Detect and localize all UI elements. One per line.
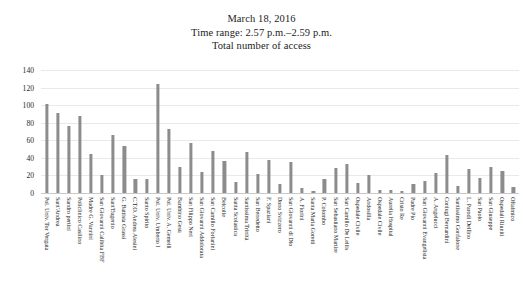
x-tick-label: Madre G. Vannini — [88, 197, 94, 240]
bar — [456, 186, 459, 193]
bar-slot — [130, 70, 141, 195]
bar — [167, 129, 170, 193]
x-tick-label: San Benedetto — [255, 197, 261, 232]
bar — [367, 175, 370, 193]
x-tick-label: A. Fiorini — [299, 197, 305, 221]
bar — [267, 160, 270, 193]
x-label-slot: A. Angelucci — [430, 196, 441, 295]
x-tick-label: Pol. Univ. Tor Vergata — [44, 197, 50, 250]
x-label-slot: Sant'Andrea — [52, 196, 63, 295]
x-label-slot: Sandro pertini — [63, 196, 74, 295]
x-label-slot: Aurelia Hospital — [386, 196, 397, 295]
bar-slot — [85, 70, 96, 195]
bar — [189, 143, 192, 193]
bar-slot — [430, 70, 441, 195]
x-tick-label: G. Battista Grassi — [121, 197, 127, 239]
x-label-slot: Santo Spirito — [141, 196, 152, 295]
x-tick-label: Ospedale Civile — [355, 197, 361, 235]
x-label-slot: Coniugi Bernardini — [441, 196, 452, 295]
bar — [334, 168, 337, 193]
x-tick-label: F. Spaziani — [266, 197, 272, 223]
x-tick-label: Sant'Andrea — [55, 197, 61, 226]
y-tick-label: 100 — [23, 101, 34, 110]
x-tick-label: Santa Maria Goretti — [310, 197, 316, 244]
bar — [445, 155, 448, 193]
x-tick-label: Santo Spirito — [144, 197, 150, 228]
x-tick-label: San Giuseppe — [488, 197, 494, 230]
bar-slot — [475, 70, 486, 195]
y-tick-label: 80 — [26, 118, 34, 127]
bar — [412, 184, 415, 193]
x-tick-label: San Giovanni Calibita FBF — [99, 197, 105, 262]
x-tick-label: Pol. Univ. Umberto I — [155, 197, 161, 247]
bar-series — [41, 70, 519, 195]
bar-slot — [363, 70, 374, 195]
bar — [478, 178, 481, 193]
x-tick-label: San Giovanni Addolorata — [199, 197, 205, 258]
x-tick-label: San Paolo — [477, 197, 483, 221]
x-label-slot: Madre G. Vannini — [85, 196, 96, 295]
x-tick-label: San Camillo De Lellis — [344, 197, 350, 250]
y-tick-label: 140 — [23, 66, 34, 75]
x-label-slot: San Camillo De Lellis — [341, 196, 352, 295]
x-label-slot: San Giovanni di Dio — [286, 196, 297, 295]
x-label-slot: San Giovanni Calibita FBF — [97, 196, 108, 295]
x-label-slot: L. Parodi Delfino — [463, 196, 474, 295]
bar-slot — [441, 70, 452, 195]
bar-slot — [486, 70, 497, 195]
x-label-slot: Pol. Univ. Umberto I — [152, 196, 163, 295]
bar-slot — [297, 70, 308, 195]
x-label-slot: Oftalmico — [508, 196, 519, 295]
bar — [467, 169, 470, 193]
x-tick-label: Santissima Trinità — [244, 197, 250, 240]
title-line-date: March 18, 2016 — [0, 12, 523, 26]
x-label-slot: San Camillo Forlanini — [208, 196, 219, 295]
x-label-slot: G. Battista Grassi — [119, 196, 130, 295]
x-label-slot: Andosilla — [363, 196, 374, 295]
bar-slot — [208, 70, 219, 195]
x-tick-label: Belcolle — [221, 197, 227, 217]
bar-slot — [119, 70, 130, 195]
bar — [490, 167, 493, 193]
bar-slot — [497, 70, 508, 195]
y-tick-label: 40 — [26, 153, 34, 162]
bar — [512, 187, 515, 193]
bar — [290, 162, 293, 193]
bar-slot — [274, 70, 285, 195]
x-label-slot: Santa Scolastica — [230, 196, 241, 295]
bar-slot — [241, 70, 252, 195]
x-tick-label: A. Angelucci — [433, 197, 439, 229]
bar-slot — [97, 70, 108, 195]
x-label-slot: F. Spaziani — [263, 196, 274, 295]
bar-slot — [141, 70, 152, 195]
bar-slot — [152, 70, 163, 195]
bar-slot — [163, 70, 174, 195]
y-tick-label: 0 — [30, 189, 34, 198]
x-tick-label: Cristo Re — [399, 197, 405, 220]
x-tick-label: Santa Scolastica — [232, 197, 238, 236]
x-tick-label: Coniugi Bernardini — [444, 197, 450, 243]
bar-slot — [263, 70, 274, 195]
bar-slot — [74, 70, 85, 195]
bar — [434, 173, 437, 193]
x-tick-label: San Sebastiano Martire — [333, 197, 339, 253]
plot-area — [41, 70, 519, 195]
bar-slot — [308, 70, 319, 195]
x-label-slot: P. Colombo — [319, 196, 330, 295]
bar — [278, 184, 281, 193]
bar — [301, 188, 304, 193]
x-label-slot: Santa Maria Goretti — [308, 196, 319, 295]
bar-slot — [108, 70, 119, 195]
x-label-slot: Pol. Univ. A. Gemelli — [163, 196, 174, 295]
bar-slot — [286, 70, 297, 195]
x-tick-label: Padre Pio — [410, 197, 416, 220]
bar — [390, 190, 393, 193]
bar-slot — [186, 70, 197, 195]
x-label-slot: Policlinico Casilino — [74, 196, 85, 295]
bar — [145, 179, 148, 193]
x-label-slot: Belcolle — [219, 196, 230, 295]
bar — [89, 154, 92, 193]
bar-slot — [63, 70, 74, 195]
bar-slot — [397, 70, 408, 195]
bar-slot — [341, 70, 352, 195]
